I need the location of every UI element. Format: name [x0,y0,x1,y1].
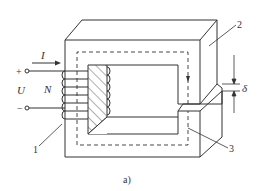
part-2-label: 2 [237,19,242,30]
core-top-face [65,20,217,40]
part-3-label: 3 [229,143,234,154]
gap-label: δ [242,82,248,94]
terminal-plus [25,69,29,73]
part-1-label: 1 [33,144,38,155]
core-right-upper-front [178,40,200,104]
flux-arrow-icon [186,76,190,82]
current-arrow [32,61,61,66]
plus-label: + [16,66,22,77]
core-right-lower-front [178,111,200,157]
core-right-upper-side [200,20,217,104]
gap-dimension [222,55,240,113]
core-front-outer [65,40,200,157]
figure-caption: a) [123,174,131,186]
turns-label: N [43,83,52,95]
voltage-label: U [17,84,26,96]
current-label: I [40,49,46,61]
magnetic-circuit-diagram: I + U N − 1 2 3 δ a) [0,0,259,191]
terminal-minus [25,106,29,110]
minus-label: − [17,103,23,114]
